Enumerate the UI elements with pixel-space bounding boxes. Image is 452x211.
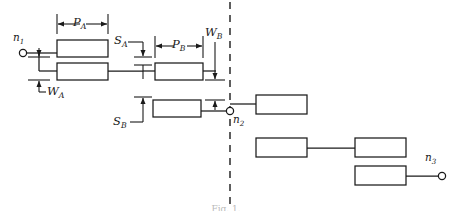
label-n3: n3 — [425, 152, 436, 165]
block-a1 — [57, 40, 108, 57]
block-b1 — [155, 63, 203, 80]
figure-interconnect-layout: n1 n2 n3 PA WA SA PB WB SB Fig. 1. — [0, 0, 452, 211]
terminal-n3 — [438, 172, 445, 179]
block-c4 — [355, 166, 406, 185]
label-dimension-pa: PA — [73, 17, 86, 31]
block-c3 — [355, 138, 406, 157]
label-dimension-wb: WB — [205, 27, 223, 41]
label-n2: n2 — [233, 114, 244, 127]
block-c1 — [256, 95, 307, 114]
label-dimension-sb: SB — [113, 116, 127, 130]
block-b2 — [153, 100, 201, 117]
figure-caption: Fig. 1. — [0, 204, 452, 211]
label-n1: n1 — [13, 32, 24, 45]
diagram-canvas — [0, 0, 452, 211]
block-c2 — [256, 138, 307, 157]
label-dimension-wa: WA — [47, 86, 64, 100]
label-dimension-sa: SA — [114, 35, 128, 49]
label-dimension-pb: PB — [172, 39, 186, 53]
terminal-n1 — [19, 49, 26, 56]
block-a2 — [57, 63, 108, 80]
